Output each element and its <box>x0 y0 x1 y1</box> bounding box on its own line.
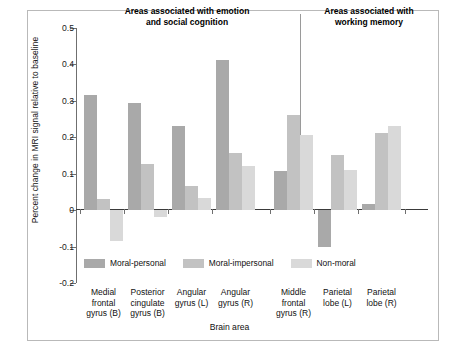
bar <box>331 155 344 210</box>
bar <box>318 210 331 247</box>
section-header-right: Areas associated with working memory <box>304 6 434 28</box>
legend-label: Moral-impersonal <box>209 258 274 268</box>
bar <box>300 135 313 210</box>
x-category-label-line: lobe (R) <box>349 298 415 309</box>
legend-label: Non-moral <box>317 258 356 268</box>
y-tick-label: 0.3 <box>34 96 74 106</box>
y-tick-label: 0.2 <box>34 132 74 142</box>
bar <box>274 171 287 210</box>
group-separator-tick <box>212 209 213 214</box>
group-separator-tick <box>124 209 125 214</box>
bar <box>141 164 154 211</box>
legend-item: Non-moral <box>291 258 356 268</box>
y-tick-label: 0.4 <box>34 59 74 69</box>
bar <box>344 170 357 210</box>
plot-area: 0.50.40.30.20.10-0.1-0.2 Areas associate… <box>76 28 428 283</box>
y-tick-label: 0.1 <box>34 169 74 179</box>
bar <box>185 186 198 210</box>
section-header-right-line1: Areas associated with <box>304 6 434 17</box>
x-category-label: Angulargyrus (R) <box>203 287 269 308</box>
group-separator-tick <box>168 209 169 214</box>
group-separator-tick <box>314 209 315 214</box>
x-category-label-line: gyrus (R) <box>261 308 327 319</box>
bar <box>154 210 167 217</box>
group-separator-tick <box>358 209 359 214</box>
legend-swatch <box>84 259 105 268</box>
bar <box>242 166 255 210</box>
section-header-right-line2: working memory <box>304 17 434 28</box>
x-category-label-line: Parietal <box>349 287 415 298</box>
x-category-label-line: gyrus (R) <box>203 298 269 309</box>
section-header-left: Areas associated with emotion and social… <box>64 6 310 28</box>
bar <box>287 115 300 210</box>
x-axis-label: Brain area <box>0 322 459 332</box>
legend: Moral-personalMoral-impersonalNon-moral <box>84 258 373 268</box>
figure: Percent change in MRI signal relative to… <box>0 0 459 355</box>
group-separator-tick <box>80 209 81 214</box>
legend-swatch <box>183 259 204 268</box>
y-tick-label: -0.2 <box>34 278 74 288</box>
bar <box>375 133 388 211</box>
bar <box>172 126 185 210</box>
bar <box>198 198 211 210</box>
legend-label: Moral-personal <box>110 258 166 268</box>
group-separator-tick <box>405 209 406 214</box>
bar <box>362 204 375 211</box>
x-category-label-line: gyrus (B) <box>115 308 181 319</box>
group-separator-tick <box>270 209 271 214</box>
y-tick-label: 0 <box>34 205 74 215</box>
legend-item: Moral-personal <box>84 258 166 268</box>
bar <box>216 60 229 210</box>
y-axis-spine <box>76 28 77 283</box>
bar <box>110 210 123 241</box>
bar <box>128 103 141 210</box>
bar <box>229 153 242 210</box>
legend-item: Moral-impersonal <box>183 258 274 268</box>
x-category-label-line: Angular <box>203 287 269 298</box>
bar <box>388 126 401 211</box>
x-category-label: Parietallobe (R) <box>349 287 415 308</box>
bar <box>84 95 97 210</box>
legend-swatch <box>291 259 312 268</box>
section-header-left-line1: Areas associated with emotion <box>64 6 310 17</box>
bar <box>97 199 110 210</box>
y-tick-label: -0.1 <box>34 242 74 252</box>
section-header-left-line2: and social cognition <box>64 17 310 28</box>
